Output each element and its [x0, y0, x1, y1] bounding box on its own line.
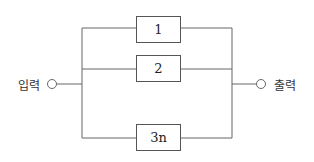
input-terminal [48, 80, 57, 89]
output-terminal [257, 80, 266, 89]
block-2: 2 [136, 55, 181, 82]
input-label: 입력 [18, 76, 40, 93]
block-2-label: 2 [154, 61, 162, 76]
block-1-label: 1 [154, 22, 162, 37]
block-3n: 3n [136, 124, 181, 151]
output-label: 출력 [274, 76, 296, 93]
block-1: 1 [136, 16, 181, 43]
block-3n-label: 3n [150, 130, 167, 145]
